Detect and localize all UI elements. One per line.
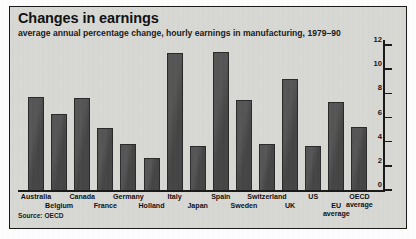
y-tick-4 xyxy=(383,141,392,143)
y-tick-6 xyxy=(383,117,392,119)
bar-canada xyxy=(74,40,90,191)
y-tick-8 xyxy=(383,93,392,95)
y-tick-0 xyxy=(383,189,392,191)
bar-us xyxy=(305,40,321,191)
x-label-sweden: Sweden xyxy=(230,202,257,210)
bar-rect xyxy=(305,146,321,191)
bar-eu-average xyxy=(328,40,344,191)
bar-rect xyxy=(144,158,160,191)
plot-area xyxy=(18,40,380,191)
y-tick-label-0: 0 xyxy=(372,181,382,189)
bar-italy xyxy=(167,40,183,191)
bar-rect xyxy=(351,127,367,191)
x-label-japan: Japan xyxy=(187,202,208,210)
bar-switzerland xyxy=(259,40,275,191)
bar-rect xyxy=(28,97,44,191)
x-label-uk: UK xyxy=(285,202,295,210)
x-label-switzerland: Switzerland xyxy=(247,193,286,201)
chart-subtitle: average annual percentage change, hourly… xyxy=(18,28,393,38)
chart-header: Changes in earnings average annual perce… xyxy=(18,11,393,38)
bar-spain xyxy=(213,40,229,191)
bar-rect xyxy=(74,98,90,191)
y-tick-label-6: 6 xyxy=(372,109,382,117)
bar-germany xyxy=(120,40,136,191)
x-label-us: US xyxy=(308,193,318,201)
bar-rect xyxy=(328,102,344,191)
bar-rect xyxy=(120,144,136,191)
y-tick-label-12: 12 xyxy=(372,36,382,44)
bar-japan xyxy=(190,40,206,191)
bar-france xyxy=(97,40,113,191)
y-tick-2 xyxy=(383,165,392,167)
bar-australia xyxy=(28,40,44,191)
x-label-australia: Australia xyxy=(21,193,51,201)
bar-sweden xyxy=(236,40,252,191)
bar-rect xyxy=(190,146,206,191)
x-axis-baseline xyxy=(18,190,383,192)
x-label-oecd-average: OECDaverage xyxy=(346,193,373,209)
bar-rect xyxy=(167,53,183,191)
page-title: Changes in earnings xyxy=(18,11,393,26)
bar-rect xyxy=(51,114,67,191)
x-label-spain: Spain xyxy=(211,193,230,201)
bar-rect xyxy=(97,128,113,191)
x-label-belgium: Belgium xyxy=(45,202,73,210)
bar-uk xyxy=(282,40,298,191)
y-tick-label-2: 2 xyxy=(372,157,382,165)
bar-rect xyxy=(259,144,275,191)
y-tick-12 xyxy=(383,44,392,46)
y-tick-label-4: 4 xyxy=(372,133,382,141)
chart-figure: Changes in earnings average annual perce… xyxy=(0,0,416,239)
x-label-italy: Italy xyxy=(167,193,181,201)
x-label-canada: Canada xyxy=(69,193,95,201)
bar-rect xyxy=(213,52,229,191)
bar-holland xyxy=(144,40,160,191)
bar-oecd-average xyxy=(351,40,367,191)
source-note: Source: OECD xyxy=(18,212,63,220)
y-tick-10 xyxy=(383,68,392,70)
y-tick-label-10: 10 xyxy=(372,60,382,68)
x-label-holland: Holland xyxy=(138,202,164,210)
bar-rect xyxy=(236,100,252,191)
x-label-france: France xyxy=(94,202,117,210)
y-tick-label-8: 8 xyxy=(372,84,382,92)
x-label-germany: Germany xyxy=(113,193,144,201)
bar-rect xyxy=(282,79,298,191)
bar-belgium xyxy=(51,40,67,191)
